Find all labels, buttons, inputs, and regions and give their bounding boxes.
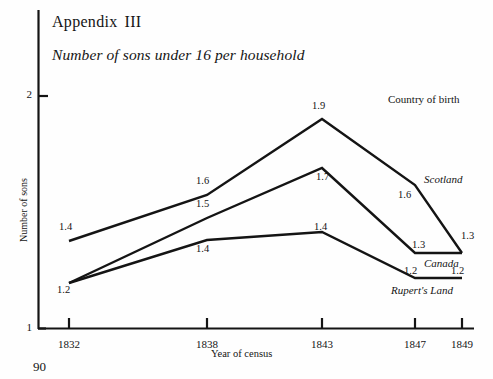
- x-axis-title: Year of census: [211, 349, 272, 360]
- series-label-ruperts-land: Rupert's Land: [391, 285, 453, 296]
- point-label-scotland-1832: 1.4: [59, 222, 72, 233]
- x-tick-label-1838: 1838: [186, 339, 228, 350]
- point-label-canada-1847: 1.3: [412, 240, 425, 251]
- page-title: AppendixIII: [52, 14, 141, 30]
- y-axis-title: Number of sons: [19, 160, 29, 260]
- point-label-scotland-1843: 1.9: [312, 101, 325, 112]
- appendix-word: Appendix: [52, 13, 118, 30]
- point-label-ruperts-1847: 1.2: [404, 266, 417, 277]
- appendix-page: AppendixIII Number of sons under 16 per …: [0, 0, 493, 379]
- series-label-scotland: Scotland: [424, 174, 463, 185]
- point-label-canada-1843: 1.7: [316, 172, 329, 183]
- x-tick-label-1847: 1847: [394, 339, 436, 350]
- page-number: 90: [33, 360, 46, 373]
- x-tick-label-1843: 1843: [301, 339, 343, 350]
- series-line-scotland: [69, 119, 462, 253]
- point-label-ruperts-1849: 1.2: [451, 266, 464, 277]
- point-label-scotland-1847: 1.6: [398, 190, 411, 201]
- point-label-scotland-1838: 1.6: [196, 176, 209, 187]
- appendix-numeral: III: [125, 13, 142, 30]
- legend-heading: Country of birth: [388, 94, 460, 105]
- x-tick-label-1832: 1832: [48, 339, 90, 350]
- x-tick-label-1849: 1849: [441, 339, 483, 350]
- chart-subtitle: Number of sons under 16 per household: [52, 47, 305, 63]
- point-label-scotland-1849: 1.3: [461, 231, 474, 242]
- y-tick-label-2: 2: [18, 89, 32, 100]
- point-label-ruperts-1838: 1.4: [196, 244, 209, 255]
- point-label-canada-1832: 1.2: [57, 285, 70, 296]
- point-label-ruperts-1843: 1.4: [314, 222, 327, 233]
- point-label-canada-1838: 1.5: [196, 199, 209, 210]
- y-tick-label-1: 1: [18, 322, 32, 333]
